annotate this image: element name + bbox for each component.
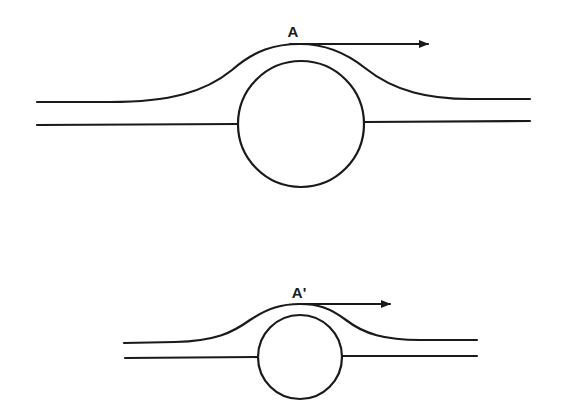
label-a-prime: A' xyxy=(292,284,306,301)
top-inner-streamline-left xyxy=(37,124,238,125)
top-outer-streamline xyxy=(37,44,530,102)
top-panel: A xyxy=(37,23,530,187)
flow-diagram: A A' xyxy=(0,0,588,415)
bottom-outer-streamline xyxy=(124,304,477,343)
bottom-cylinder xyxy=(258,315,342,399)
label-a: A xyxy=(288,23,299,40)
top-cylinder xyxy=(238,61,364,187)
bottom-inner-streamline-left xyxy=(125,357,258,358)
top-inner-streamline-right xyxy=(364,121,530,122)
bottom-panel: A' xyxy=(124,284,477,399)
